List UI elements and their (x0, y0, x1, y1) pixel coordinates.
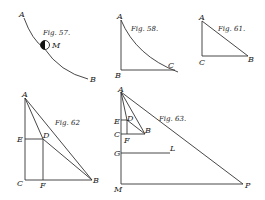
label-f: F (123, 136, 130, 145)
label-g: G (114, 149, 121, 158)
label-c: C (114, 130, 120, 139)
figure-57: A B M Fig. 57. (18, 10, 96, 84)
label-c: C (17, 179, 23, 188)
label-m: M (113, 185, 123, 194)
label-b: B (247, 55, 254, 64)
label-m: M (51, 41, 61, 50)
label-a: A (18, 10, 25, 19)
label-b: B (144, 126, 151, 135)
label-p: P (244, 181, 251, 190)
figure-63: A E D C B F G L M P Fig. 63. (113, 85, 251, 194)
label-b: B (89, 75, 96, 84)
caption-63: Fig. 63. (158, 115, 186, 123)
caption-62: Fig. 62 (54, 119, 80, 127)
label-b: B (114, 71, 121, 80)
label-f: F (39, 181, 46, 190)
label-l: L (169, 144, 175, 153)
label-c: C (168, 61, 174, 70)
label-a: A (116, 12, 123, 21)
label-a: A (21, 90, 28, 99)
figure-61: A C B Fig. 61. (198, 13, 254, 67)
label-a: A (198, 13, 205, 22)
ball-shade (41, 41, 46, 50)
caption-57: Fig. 57. (42, 29, 70, 37)
label-e: E (16, 135, 23, 144)
caption-58: Fig. 58. (130, 25, 158, 33)
label-d: D (126, 114, 134, 123)
diagram-canvas: A B M Fig. 57. A B C Fig. 58. A C B Fig.… (0, 0, 265, 200)
figure-62: A E D C F B Fig. 62 (16, 90, 99, 190)
label-d: D (42, 131, 50, 140)
label-b: B (92, 176, 99, 185)
label-c: C (199, 58, 205, 67)
caption-61: Fig. 61. (217, 25, 245, 33)
figure-58: A B C Fig. 58. (114, 12, 178, 80)
label-a: A (117, 85, 124, 94)
label-e: E (113, 117, 120, 126)
